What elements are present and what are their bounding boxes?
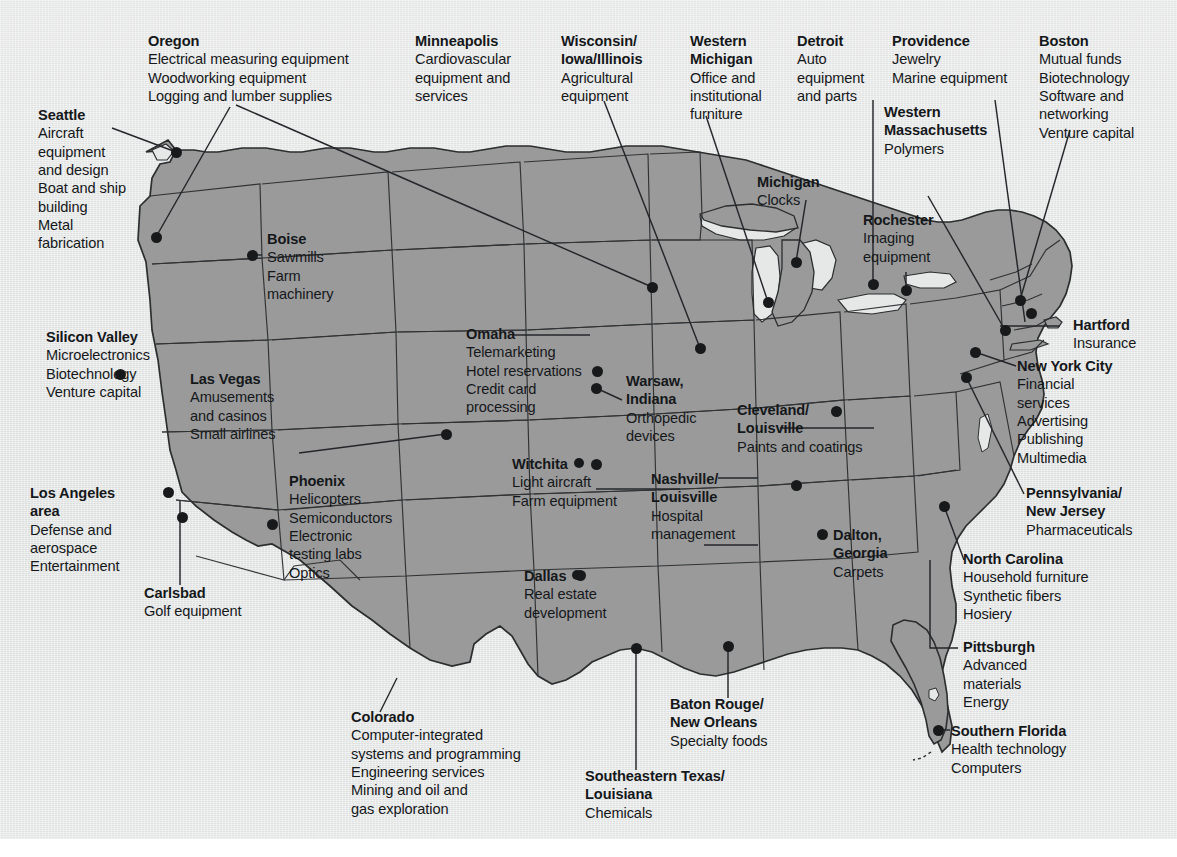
label-dallas[interactable]: Dallas Real estate development	[524, 567, 606, 622]
label-wisconsin-iowa-illinois[interactable]: Wisconsin/ Iowa/Illinois Agricultural eq…	[561, 32, 642, 105]
label-baton-rouge-head-0: Baton Rouge/	[670, 695, 767, 713]
label-penn-nj-line-0: Pharmaceuticals	[1026, 521, 1132, 539]
label-michigan[interactable]: Michigan Clocks	[757, 173, 819, 210]
label-witchita[interactable]: Witchita Light aircraft Farm equipment	[512, 455, 617, 510]
dot-warsaw[interactable]	[591, 383, 602, 394]
label-cleveland-head-1: Louisville	[737, 419, 862, 437]
label-boston[interactable]: Boston Mutual funds Biotechnology Softwa…	[1039, 32, 1134, 142]
label-boise[interactable]: Boise Sawmills Farm machinery	[267, 230, 333, 303]
label-seattle-line-5: Metal	[38, 216, 126, 234]
label-wisconsin-head-0: Wisconsin/	[561, 32, 642, 50]
dot-omaha[interactable]	[592, 366, 603, 377]
label-las-vegas[interactable]: Las Vegas Amusements and casinos Small a…	[190, 370, 275, 443]
dot-las-vegas[interactable]	[441, 429, 452, 440]
label-pittsburgh[interactable]: Pittsburgh Advanced materials Energy	[963, 638, 1035, 711]
label-phoenix[interactable]: Phoenix Helicopters Semiconductors Elect…	[289, 472, 392, 582]
witchita-inline-dot[interactable]	[574, 458, 584, 468]
label-los-angeles-area[interactable]: Los Angeles area Defense and aerospace E…	[30, 484, 120, 576]
label-minneapolis[interactable]: Minneapolis Cardiovascular equipment and…	[415, 32, 511, 105]
dot-boston[interactable]	[1015, 295, 1026, 306]
label-western-michigan-line-0: Office and	[690, 69, 762, 87]
dot-rochester[interactable]	[901, 285, 912, 296]
dot-se-texas[interactable]	[631, 643, 642, 654]
label-omaha[interactable]: Omaha Telemarketing Hotel reservations C…	[466, 325, 582, 417]
label-oregon[interactable]: Oregon Electrical measuring equipment Wo…	[148, 32, 349, 105]
label-seattle-head-0: Seattle	[38, 106, 126, 124]
dot-baton-rouge[interactable]	[723, 641, 734, 652]
label-dalton-head-1: Georgia	[833, 544, 887, 562]
label-southeastern-texas-louisiana[interactable]: Southeastern Texas/ Louisiana Chemicals	[585, 767, 725, 822]
label-silicon-valley[interactable]: Silicon Valley Microelectronics Biotechn…	[46, 328, 150, 401]
label-seattle-line-2: and design	[38, 161, 126, 179]
label-silicon-valley-line-2: Venture capital	[46, 383, 150, 401]
label-baton-rouge-new-orleans[interactable]: Baton Rouge/ New Orleans Specialty foods	[670, 695, 767, 750]
label-colorado[interactable]: Colorado Computer-integrated systems and…	[351, 708, 521, 818]
dot-los-angeles-2[interactable]	[177, 512, 188, 523]
label-boise-head-0: Boise	[267, 230, 333, 248]
label-western-massachusetts[interactable]: Western Massachusetts Polymers	[884, 103, 987, 158]
dot-nyc[interactable]	[970, 347, 981, 358]
dot-wisconsin[interactable]	[695, 343, 706, 354]
dot-nashville[interactable]	[791, 480, 802, 491]
label-dalton-georgia[interactable]: Dalton, Georgia Carpets	[833, 526, 887, 581]
label-pennsylvania-new-jersey[interactable]: Pennsylvania/ New Jersey Pharmaceuticals	[1026, 484, 1132, 539]
label-detroit-head-0: Detroit	[797, 32, 864, 50]
label-se-texas-line-0: Chemicals	[585, 804, 725, 822]
label-north-carolina-line-1: Synthetic fibers	[963, 587, 1088, 605]
dot-southern-florida[interactable]	[933, 725, 944, 736]
label-phoenix-line-3: testing labs	[289, 545, 392, 563]
dot-seattle[interactable]	[171, 147, 182, 158]
label-western-mass-line-0: Polymers	[884, 140, 987, 158]
dot-providence[interactable]	[1026, 308, 1037, 319]
dot-dalton[interactable]	[817, 529, 828, 540]
label-north-carolina[interactable]: North Carolina Household furniture Synth…	[963, 550, 1088, 623]
dot-minneapolis[interactable]	[647, 282, 658, 293]
label-cleveland-louisville[interactable]: Cleveland/ Louisville Paints and coating…	[737, 401, 862, 456]
label-western-michigan[interactable]: Western Michigan Office and institutiona…	[690, 32, 762, 124]
label-dalton-head-0: Dalton,	[833, 526, 887, 544]
dot-western-mass[interactable]	[1000, 325, 1011, 336]
label-warsaw-head-0: Warsaw,	[626, 372, 696, 390]
label-western-michigan-line-1: institutional	[690, 87, 762, 105]
label-hartford[interactable]: Hartford Insurance	[1073, 316, 1136, 353]
dot-western-michigan[interactable]	[763, 297, 774, 308]
label-providence[interactable]: Providence Jewelry Marine equipment	[892, 32, 1007, 87]
label-se-texas-head-0: Southeastern Texas/	[585, 767, 725, 785]
label-nashville-louisville[interactable]: Nashville/ Louisville Hospital managemen…	[651, 470, 735, 543]
label-colorado-head-0: Colorado	[351, 708, 521, 726]
label-dallas-line-1: development	[524, 604, 606, 622]
label-rochester[interactable]: Rochester Imaging equipment	[863, 211, 933, 266]
dot-north-carolina[interactable]	[939, 501, 950, 512]
label-southern-florida[interactable]: Southern Florida Health technology Compu…	[951, 722, 1066, 777]
label-minneapolis-line-0: Cardiovascular	[415, 50, 511, 68]
label-seattle[interactable]: Seattle Aircraft equipment and design Bo…	[38, 106, 126, 253]
label-new-york-city[interactable]: New York City Financial services Adverti…	[1017, 357, 1112, 467]
dot-boise[interactable]	[247, 250, 258, 261]
dot-michigan[interactable]	[791, 257, 802, 268]
label-carlsbad-head-0: Carlsbad	[144, 584, 242, 602]
label-omaha-line-3: processing	[466, 398, 582, 416]
label-michigan-head-0: Michigan	[757, 173, 819, 191]
dot-detroit[interactable]	[868, 279, 879, 290]
label-pittsburgh-line-1: materials	[963, 675, 1035, 693]
label-oregon-line-1: Woodworking equipment	[148, 69, 349, 87]
label-penn-nj-head-0: Pennsylvania/	[1026, 484, 1132, 502]
label-nyc-line-3: Publishing	[1017, 430, 1112, 448]
dot-penn-nj[interactable]	[961, 372, 972, 383]
dot-oregon[interactable]	[151, 232, 162, 243]
label-minneapolis-head-0: Minneapolis	[415, 32, 511, 50]
label-detroit[interactable]: Detroit Auto equipment and parts	[797, 32, 864, 105]
label-pittsburgh-line-0: Advanced	[963, 656, 1035, 674]
dallas-inline-dot[interactable]	[572, 570, 582, 580]
label-rochester-line-0: Imaging	[863, 229, 933, 247]
label-wisconsin-line-1: equipment	[561, 87, 642, 105]
label-southern-florida-head-0: Southern Florida	[951, 722, 1066, 740]
dot-phoenix[interactable]	[267, 519, 278, 530]
label-rochester-line-1: equipment	[863, 248, 933, 266]
label-pittsburgh-line-2: Energy	[963, 693, 1035, 711]
dot-los-angeles-1[interactable]	[163, 487, 174, 498]
label-carlsbad[interactable]: Carlsbad Golf equipment	[144, 584, 242, 621]
label-warsaw-indiana[interactable]: Warsaw, Indiana Orthopedic devices	[626, 372, 696, 445]
label-north-carolina-line-2: Hosiery	[963, 605, 1088, 623]
label-north-carolina-line-0: Household furniture	[963, 568, 1088, 586]
